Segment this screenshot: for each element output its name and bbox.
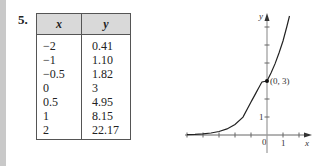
y-axis-label: y bbox=[258, 11, 263, 21]
x-axis-arrow-icon bbox=[304, 133, 312, 138]
x-axis: 0 1 x bbox=[185, 133, 312, 149]
x-axis-label: x bbox=[304, 138, 309, 148]
origin-label: 0 bbox=[262, 137, 267, 147]
point-marker bbox=[265, 79, 269, 83]
y-tick-label: 1 bbox=[259, 112, 264, 122]
point-label: (0, 3) bbox=[270, 76, 290, 86]
x-tick-label: 1 bbox=[281, 138, 286, 148]
y-axis-arrow-icon bbox=[265, 13, 270, 21]
graph: 0 1 x 1 y (0, 3) bbox=[0, 0, 317, 166]
